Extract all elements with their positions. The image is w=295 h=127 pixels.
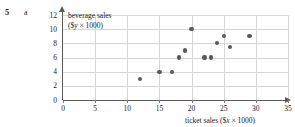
y-axis-tick-label: 6 (43, 53, 57, 62)
x-axis-tick-label: 20 (184, 104, 200, 113)
x-axis-tick (159, 100, 160, 103)
x-axis-tick-label: 5 (87, 104, 103, 113)
x-axis-tick-label: 0 (55, 104, 71, 113)
data-point (183, 48, 187, 52)
x-axis-tick (127, 100, 128, 103)
data-point (202, 55, 206, 59)
x-axis-tick (224, 100, 225, 103)
y-axis-tick-label: 12 (43, 11, 57, 20)
y-axis-title-line2-suffix: × 1000) (78, 21, 103, 30)
gridline-horizontal (63, 58, 288, 59)
scatter-plot-figure: 5 a beverage sales ($y × 1000) ticket sa… (0, 0, 295, 127)
x-axis-tick-label: 35 (280, 104, 295, 113)
data-point (189, 27, 193, 31)
data-point (247, 34, 251, 38)
data-point (157, 70, 161, 74)
x-axis-tick-label: 25 (216, 104, 232, 113)
y-axis-title-line1: beverage sales (68, 11, 112, 20)
x-axis-tick (95, 100, 96, 103)
x-axis-tick-label: 10 (119, 104, 135, 113)
x-axis-tick (192, 100, 193, 103)
y-axis-tick-label: 4 (43, 67, 57, 76)
x-axis-line (63, 100, 286, 101)
x-axis-title: ticket sales ($x × 1000) (185, 116, 255, 126)
question-number: 5 (5, 7, 9, 17)
gridline-horizontal (63, 43, 288, 44)
gridline-horizontal (63, 72, 288, 73)
part-label: a (24, 8, 28, 17)
x-axis-title-suffix: × 1000) (230, 116, 255, 125)
x-axis-tick-label: 15 (151, 104, 167, 113)
x-axis-tick (256, 100, 257, 103)
data-point (209, 55, 213, 59)
data-point (177, 55, 181, 59)
y-axis-line (62, 10, 63, 100)
y-axis-tick-label: 2 (43, 81, 57, 90)
y-axis-tick-label: 10 (43, 25, 57, 34)
gridline-horizontal (63, 86, 288, 87)
x-axis-title-prefix: ticket sales ($ (185, 116, 226, 125)
data-point (138, 77, 142, 81)
y-axis-title: beverage sales ($y × 1000) (68, 11, 112, 30)
y-axis-tick-label: 0 (43, 96, 57, 105)
x-axis-tick (63, 100, 64, 103)
x-axis-tick-label: 30 (248, 104, 264, 113)
y-axis-arrow-icon (59, 6, 65, 12)
gridline-vertical (288, 15, 289, 100)
x-axis-tick (288, 100, 289, 103)
y-axis-tick-label: 8 (43, 39, 57, 48)
